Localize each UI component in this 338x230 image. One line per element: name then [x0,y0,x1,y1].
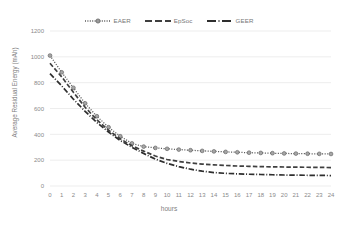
x-tick-label: 16 [234,192,241,198]
x-tick-label: 20 [281,192,288,198]
y-tick-label: 800 [34,80,45,86]
y-tick-label: 0 [41,183,45,189]
data-point-eaer [153,146,157,150]
data-point-eaer [271,151,275,155]
data-point-eaer [329,152,333,156]
x-tick-label: 9 [154,192,158,198]
data-point-eaer [317,152,321,156]
data-point-eaer [165,147,169,151]
data-point-eaer [189,148,193,152]
x-tick-label: 11 [176,192,183,198]
data-point-eaer [83,101,87,105]
x-tick-label: 14 [211,192,218,198]
data-point-eaer [235,150,239,154]
data-point-eaer [60,70,64,74]
chart-container: EAER EpSoc GEER Average Residual Energy … [0,0,338,230]
x-tick-label: 24 [328,192,335,198]
data-point-eaer [72,86,76,90]
x-tick-label: 23 [316,192,323,198]
data-point-eaer [259,151,263,155]
data-point-eaer [247,151,251,155]
data-point-eaer [107,125,111,129]
y-tick-labels: 020040060080010001200 [31,28,45,189]
x-tick-label: 21 [293,192,300,198]
data-point-eaer [294,152,298,156]
x-tick-label: 18 [257,192,264,198]
x-tick-label: 8 [142,192,146,198]
y-tick-label: 200 [34,157,45,163]
x-tick-label: 3 [83,192,87,198]
x-tick-label: 22 [304,192,311,198]
x-tick-label: 1 [60,192,64,198]
data-point-eaer [224,150,228,154]
data-point-eaer [212,149,216,153]
x-tick-label: 13 [199,192,206,198]
x-tick-label: 15 [222,192,229,198]
data-point-eaer [177,148,181,152]
x-tick-label: 10 [164,192,171,198]
data-series-layer [48,54,333,176]
x-tick-labels: 0123456789101112131415161718192021222324 [48,192,335,198]
x-tick-label: 2 [72,192,76,198]
y-tick-label: 1000 [31,54,45,60]
data-point-eaer [48,54,52,58]
data-point-eaer [282,152,286,156]
x-tick-label: 6 [119,192,123,198]
x-tick-label: 17 [246,192,253,198]
data-point-eaer [142,145,146,149]
x-tick-label: 5 [107,192,111,198]
plot-area: 020040060080010001200 012345678910111213… [0,0,338,230]
x-tick-label: 12 [187,192,194,198]
y-tick-label: 600 [34,106,45,112]
x-tick-label: 7 [130,192,134,198]
data-point-eaer [200,149,204,153]
data-point-eaer [306,152,310,156]
y-tick-label: 1200 [31,28,45,34]
x-tick-label: 19 [269,192,276,198]
series-line-eaer [50,56,331,154]
y-tick-label: 400 [34,132,45,138]
x-tick-label: 0 [48,192,52,198]
x-tick-label: 4 [95,192,99,198]
